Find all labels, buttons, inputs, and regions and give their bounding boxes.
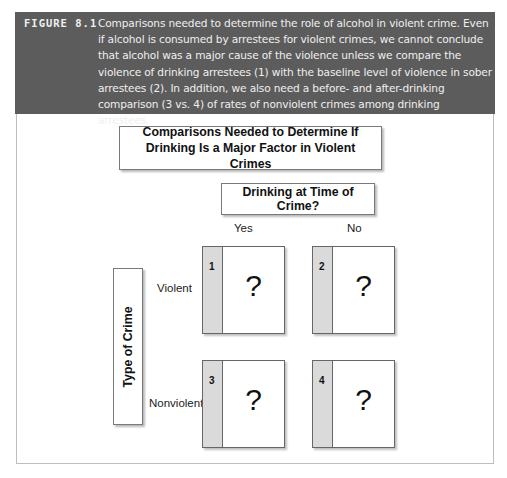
figure-caption-header: FIGURE 8.1 Comparisons needed to determi… [15,12,495,114]
row-header: Type of Crime [121,306,135,387]
cell-value: ? [333,383,394,417]
cell-value: ? [223,383,284,417]
row-label-violent: Violent [157,282,192,294]
column-header: Drinking at Time of Crime? [222,185,374,213]
diagram-title: Comparisons Needed to Determine If Drink… [136,124,366,172]
cell-2: 2 ? [312,246,395,334]
cell-value: ? [223,269,284,303]
cell-number: 4 [319,375,325,386]
cell-strip [203,361,223,447]
diagram-title-box: Comparisons Needed to Determine If Drink… [119,126,382,170]
cell-number: 3 [209,375,215,386]
cell-number: 2 [319,261,325,272]
cell-strip [203,247,223,333]
cell-4: 4 ? [312,360,395,448]
cell-strip [313,247,333,333]
column-header-box: Drinking at Time of Crime? [221,183,375,215]
cell-value: ? [333,269,394,303]
column-label-yes: Yes [234,222,253,234]
cell-number: 1 [209,261,215,272]
cell-1: 1 ? [202,246,285,334]
row-header-box: Type of Crime [113,268,143,425]
cell-3: 3 ? [202,360,285,448]
figure-label: FIGURE 8.1 [24,17,97,29]
figure-caption: Comparisons needed to determine the role… [98,15,493,128]
column-label-no: No [347,222,362,234]
row-label-nonviolent: Nonviolent [149,397,203,409]
cell-strip [313,361,333,447]
